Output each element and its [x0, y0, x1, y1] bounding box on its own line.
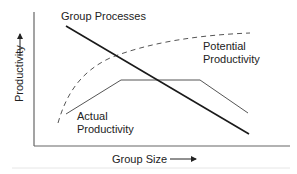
x-axis-label: Group Size [112, 153, 167, 165]
productivity-chart: Group Processes Potential Productivity A… [0, 0, 297, 174]
potential-label-line2: Productivity [203, 53, 260, 65]
y-axis-label: Productivity [13, 45, 25, 102]
group-processes-label: Group Processes [61, 10, 146, 22]
actual-label-line2: Productivity [77, 123, 134, 135]
actual-productivity-line [66, 80, 248, 114]
potential-label-line1: Potential [203, 40, 246, 52]
actual-label-line1: Actual [77, 110, 108, 122]
